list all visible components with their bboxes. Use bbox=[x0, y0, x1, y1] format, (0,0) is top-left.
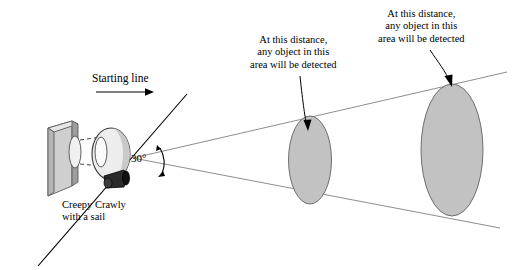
label-mid-callout-line1: At this distance, bbox=[259, 34, 327, 45]
figure-canvas: Starting line Creepy Crawlywith a sail 3… bbox=[0, 0, 514, 270]
label-far-callout-line2: any object in this bbox=[385, 20, 457, 31]
mid-detection-area bbox=[289, 116, 332, 204]
far-detection-area bbox=[421, 84, 483, 216]
block-port-ellipse bbox=[69, 136, 81, 168]
far-detection-ellipse bbox=[421, 84, 483, 216]
robot-creepy-crawly bbox=[92, 128, 130, 188]
label-mid-callout: At this distance,any object in thisarea … bbox=[250, 34, 337, 71]
wall-block bbox=[48, 121, 81, 196]
label-cone-angle: 30° bbox=[131, 152, 146, 165]
label-robot-name: Creepy Crawlywith a sail bbox=[62, 199, 126, 224]
label-robot-name-line2: with a sail bbox=[62, 211, 105, 222]
mid-detection-ellipse bbox=[289, 116, 332, 204]
starting-line-arrow-head bbox=[145, 88, 154, 95]
far-callout-leader bbox=[430, 50, 453, 87]
angle-marker-group bbox=[156, 145, 165, 177]
block-left-face bbox=[48, 128, 54, 196]
label-mid-callout-line2: any object in this bbox=[257, 46, 329, 57]
starting-line-arrow-group bbox=[96, 88, 154, 95]
label-robot-name-line1: Creepy Crawly bbox=[62, 199, 126, 210]
label-far-callout-line1: At this distance, bbox=[387, 8, 455, 19]
label-mid-callout-line3: area will be detected bbox=[250, 59, 337, 70]
label-far-callout: At this distance,any object in thisarea … bbox=[378, 8, 465, 45]
label-starting-line: Starting line bbox=[92, 72, 149, 86]
robot-sail bbox=[95, 137, 107, 167]
label-far-callout-line3: area will be detected bbox=[378, 33, 465, 44]
sensor-lens bbox=[123, 171, 130, 185]
angle-arc-arrow-bottom bbox=[158, 171, 165, 177]
sensor-rear-cap bbox=[104, 178, 112, 188]
